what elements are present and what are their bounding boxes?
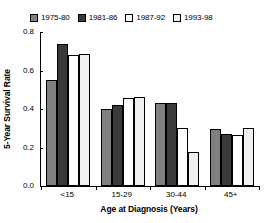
bar: [79, 54, 90, 186]
x-tick-label: 30-44: [166, 190, 186, 199]
y-tick-label: 0.2: [23, 144, 34, 152]
bar: [188, 152, 199, 186]
x-tick-label: 15-29: [112, 190, 132, 199]
y-tick-mark: [40, 148, 43, 149]
y-axis-title-text: 5-Year Survival Rate: [2, 69, 12, 149]
bar: [155, 103, 166, 186]
y-axis-tick-labels: 0.00.20.40.60.8: [14, 32, 36, 188]
bar: [177, 128, 188, 186]
chart-legend: 1975-801981-861987-921993-98: [30, 11, 256, 24]
bar-groups-container: [41, 32, 259, 186]
y-tick-label: 0.0: [23, 182, 34, 190]
y-tick-label: 0.8: [23, 28, 34, 36]
bar-group: [96, 32, 151, 186]
legend-swatch-icon: [173, 14, 181, 22]
bar: [46, 80, 57, 186]
plot-wrapper: 0.00.20.40.60.8 <1515-2930-4445+: [14, 32, 262, 188]
y-axis-title: 5-Year Survival Rate: [0, 30, 14, 188]
legend-swatch-icon: [78, 14, 86, 22]
legend-swatch-icon: [125, 14, 133, 22]
bar-group: [150, 32, 205, 186]
bar: [243, 128, 254, 186]
x-tick-label: 45+: [224, 190, 238, 199]
bar: [68, 55, 79, 186]
legend-label: 1993-98: [184, 13, 213, 22]
bar: [101, 109, 112, 186]
legend-label: 1981-86: [89, 13, 118, 22]
legend-entry: 1993-98: [173, 13, 213, 22]
y-tick-mark: [40, 109, 43, 110]
y-tick-mark: [40, 71, 43, 72]
y-tick-label: 0.6: [23, 67, 34, 75]
legend-entry: 1975-80: [30, 13, 70, 22]
bar-group: [205, 32, 260, 186]
y-tick-mark: [40, 186, 43, 187]
legend-entry: 1981-86: [78, 13, 118, 22]
legend-label: 1987-92: [136, 13, 165, 22]
bar-chart-figure: 1975-801981-861987-921993-98 5-Year Surv…: [0, 0, 271, 223]
x-tick-label: <15: [60, 190, 74, 199]
bar: [166, 103, 177, 186]
bar: [123, 98, 134, 186]
bar-group: [41, 32, 96, 186]
legend-swatch-icon: [30, 14, 38, 22]
legend-entry: 1987-92: [125, 13, 165, 22]
legend-label: 1975-80: [41, 13, 70, 22]
y-tick-mark: [40, 32, 43, 33]
x-axis-title: Age at Diagnosis (Years): [40, 204, 258, 214]
bar: [232, 135, 243, 186]
y-tick-label: 0.4: [23, 105, 34, 113]
x-axis-tick-labels: <1515-2930-4445+: [40, 190, 258, 201]
bar: [57, 44, 68, 186]
bar: [134, 97, 145, 186]
plot-area: [40, 32, 259, 187]
x-tick-mark: [259, 186, 260, 190]
bar: [221, 134, 232, 186]
bar: [112, 105, 123, 186]
bar: [210, 129, 221, 186]
